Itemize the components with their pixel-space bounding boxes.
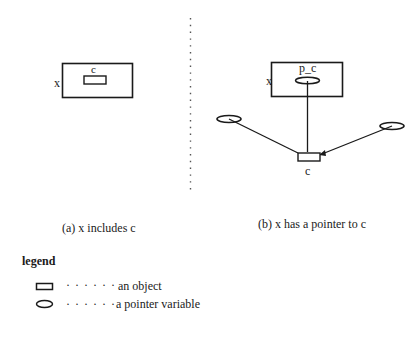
legend-ellipse-icon (37, 301, 53, 308)
label-c-b: c (305, 165, 310, 177)
legend-dots: · · · · · · (66, 279, 116, 291)
label-x-a: x (54, 77, 60, 89)
label-x-b: x (266, 75, 272, 87)
object-x-box-a (63, 64, 133, 98)
label-p-c: p_c (299, 62, 316, 74)
legend-dots: · · · · · · (66, 298, 116, 310)
object-c-box-b (298, 153, 320, 161)
legend-label-pointer: a pointer variable (116, 298, 200, 310)
label-c-a: c (91, 64, 96, 75)
legend-title: legend (22, 255, 55, 267)
pointer-link-left (229, 119, 298, 153)
object-c-box-a (84, 76, 106, 84)
legend-rectangle-icon (37, 284, 53, 290)
caption-b: (b) x has a pointer to c (258, 218, 366, 230)
pointer-link-right (322, 126, 392, 154)
figure-caption-cut-off (70, 334, 350, 339)
diagram-canvas (0, 0, 418, 339)
caption-a: (a) x includes c (62, 222, 136, 234)
legend-label-object: an object (118, 280, 162, 292)
